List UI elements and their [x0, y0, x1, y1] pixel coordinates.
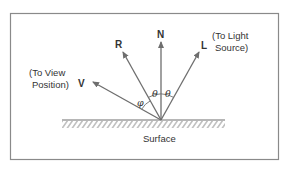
angle-theta-right-label: θ [165, 88, 171, 99]
label-V: V [78, 78, 85, 89]
surface [62, 120, 225, 128]
label-R: R [115, 39, 123, 50]
label-N: N [157, 29, 164, 40]
light-note-line1: (To Light [212, 30, 249, 41]
angle-theta-left-label: θ [152, 88, 158, 99]
light-note-line2: Source) [215, 42, 248, 53]
view-note-line2: Position) [32, 79, 69, 90]
view-note-line1: (To View [29, 67, 65, 78]
angle-phi-label: φ [137, 97, 144, 108]
label-L: L [201, 40, 207, 51]
surface-label: Surface [143, 133, 176, 144]
surface-hatching [62, 121, 225, 128]
reflection-diagram: N R L V (To Light Source) (To View Posit… [0, 0, 288, 169]
